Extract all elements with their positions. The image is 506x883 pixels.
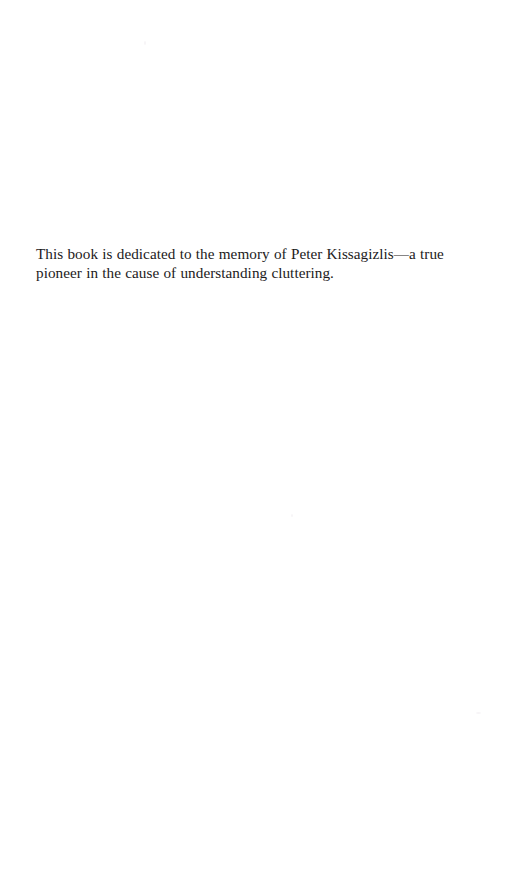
scan-speck-icon bbox=[291, 514, 293, 517]
scan-speck-icon bbox=[144, 41, 146, 45]
dedication-text: This book is dedicated to the memory of … bbox=[36, 245, 450, 282]
book-page: This book is dedicated to the memory of … bbox=[0, 0, 506, 883]
dedication-block: This book is dedicated to the memory of … bbox=[36, 245, 450, 282]
scan-speck-icon bbox=[476, 712, 481, 714]
